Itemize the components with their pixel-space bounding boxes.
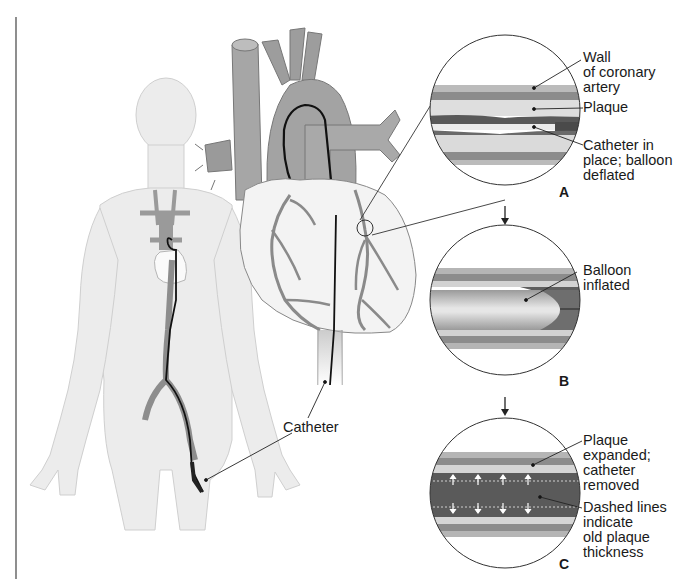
plaque-expanded-label: Plaque expanded; catheter removed (583, 433, 651, 493)
down-arrow-icon (501, 397, 509, 416)
plaque-label: Plaque (583, 100, 628, 115)
panel-letter-b: B (559, 373, 569, 389)
panel-c-circle (425, 418, 585, 568)
catheter-label: Catheter (283, 420, 339, 435)
wall-of-coronary-artery-label: Wall of coronary artery (583, 50, 656, 95)
dashed-lines-label: Dashed lines indicate old plaque thickne… (583, 500, 667, 560)
panel-letter-a: A (559, 184, 569, 200)
zoom-line (360, 90, 440, 220)
down-arrow-icon (501, 206, 509, 225)
catheter-in-place-label: Catheter in place; balloon deflated (583, 138, 673, 183)
panel-b-circle (425, 225, 585, 375)
balloon-inflated-label: Balloon inflated (583, 263, 631, 293)
panel-a-circle (425, 35, 585, 185)
angioplasty-diagram (0, 0, 676, 579)
panel-letter-c: C (559, 556, 569, 572)
